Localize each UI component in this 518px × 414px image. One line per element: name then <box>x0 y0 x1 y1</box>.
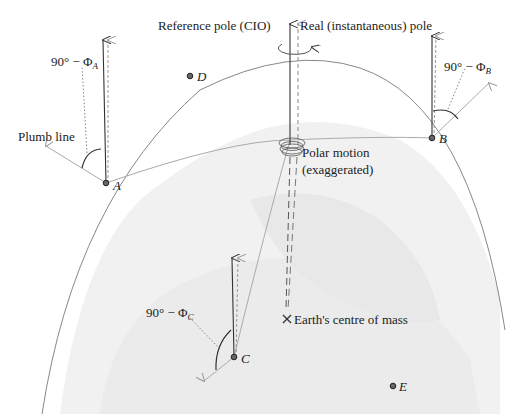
label-point-E: E <box>399 380 407 393</box>
point-E <box>390 383 396 389</box>
label-plumb-line: Plumb line <box>18 130 75 143</box>
label-point-C: C <box>241 352 250 365</box>
point-D <box>187 73 193 79</box>
label-centre-of-mass: Earth's centre of mass <box>294 313 408 326</box>
label-angle-C: 90° − ΦC <box>146 306 194 322</box>
label-angle-A: 90° − ΦA <box>51 55 98 71</box>
label-real-pole: Real (instantaneous) pole <box>300 19 432 32</box>
label-reference-pole: Reference pole (CIO) <box>158 19 271 32</box>
label-angle-B: 90° − ΦB <box>444 60 491 76</box>
earth-landmass <box>60 122 500 414</box>
label-point-D: D <box>197 70 206 83</box>
label-polar-motion: Polar motion <box>302 146 370 159</box>
label-point-B: B <box>439 132 447 145</box>
label-point-A: A <box>113 179 121 192</box>
station-B <box>429 36 489 141</box>
label-polar-motion-exaggerated: (exaggerated) <box>302 163 373 176</box>
rotation-arrow-icon <box>278 44 312 54</box>
